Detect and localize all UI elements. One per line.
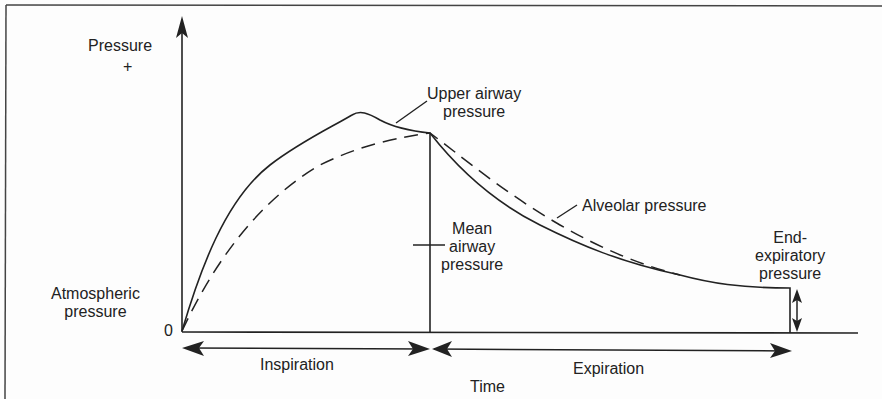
mean-airway-pressure-label: Mean airway pressure xyxy=(441,220,503,274)
frame-left xyxy=(5,5,6,399)
alveolar-pressure-curve xyxy=(182,133,680,331)
upper-airway-pressure-label: Upper airway pressure xyxy=(427,85,521,121)
expiration-arrow xyxy=(434,349,788,351)
alveolar-pressure-label: Alveolar pressure xyxy=(582,197,707,215)
y-axis-sign: + xyxy=(123,58,132,76)
inspiration-label: Inspiration xyxy=(260,356,334,374)
upper-airway-leader xyxy=(396,101,427,123)
alveolar-leader xyxy=(557,205,577,218)
inspiration-arrow xyxy=(186,348,426,349)
x-axis xyxy=(182,332,858,333)
y-axis-label: Pressure xyxy=(88,37,152,55)
x-axis-label: Time xyxy=(470,378,505,396)
ventilation-pressure-diagram: Pressure + 0 Atmospheric pressure Upper … xyxy=(0,0,882,399)
atmospheric-pressure-label: Atmospheric pressure xyxy=(51,285,140,321)
origin-label: 0 xyxy=(164,322,173,340)
frame-top xyxy=(6,5,882,6)
expiration-label: Expiration xyxy=(573,360,644,378)
end-expiratory-pressure-label: End- expiratory pressure xyxy=(755,229,825,283)
